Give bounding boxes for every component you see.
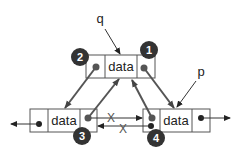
svg-text:1: 1	[146, 44, 152, 56]
pointer-p-label: p	[197, 64, 204, 79]
svg-text:4: 4	[153, 132, 160, 144]
step-badge-1: 1	[140, 41, 158, 59]
link-1-top-next-to-right	[144, 68, 174, 108]
node-left-data: data	[51, 113, 77, 128]
link-2-top-prev-to-left	[65, 67, 96, 108]
step-badge-4: 4	[147, 129, 165, 147]
pointer-p-arrow	[177, 81, 196, 107]
step-badge-3: 3	[73, 127, 91, 145]
pointer-q-label: q	[96, 11, 103, 26]
node-top-data: data	[108, 59, 134, 74]
svg-text:3: 3	[79, 130, 85, 142]
node-right-data: data	[163, 113, 189, 128]
pointer-q-arrow	[105, 29, 120, 54]
x-mark-next: X	[107, 111, 115, 125]
x-mark-prev: X	[119, 122, 127, 136]
link-4-right-prev-to-top	[132, 80, 152, 118]
step-badge-2: 2	[71, 48, 89, 66]
svg-text:2: 2	[77, 51, 83, 63]
linked-list-diagram: data data data X X q p 1	[0, 0, 243, 157]
